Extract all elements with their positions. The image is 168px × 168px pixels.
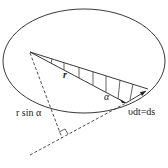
diagram-graphic	[0, 0, 168, 168]
kepler-area-diagram: r α r sin α υdt=ds	[0, 0, 168, 168]
label-alpha: α	[104, 91, 109, 102]
perpendicular-dashed	[30, 53, 62, 138]
label-r: r	[63, 69, 67, 80]
label-r-sin-alpha: r sin α	[16, 107, 41, 118]
label-vdt-ds: υdt=ds	[128, 106, 155, 117]
arrowhead-icon	[120, 99, 126, 103]
tangent-dashed	[30, 103, 126, 155]
orbit-ellipse	[3, 9, 165, 113]
